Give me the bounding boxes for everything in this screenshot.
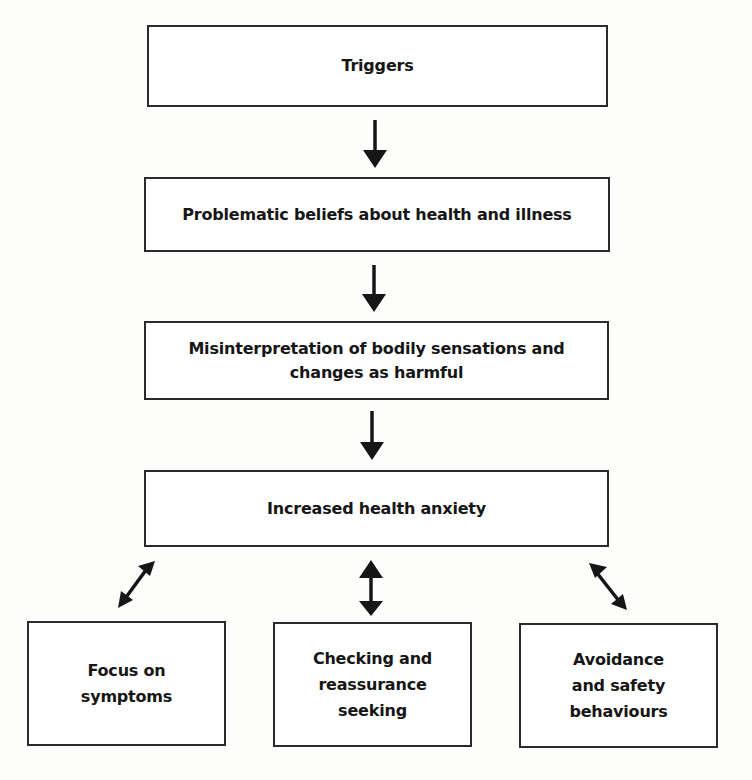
node-checking-reassurance-label: Checking and reassurance seeking: [313, 646, 432, 724]
node-avoidance-safety-label: Avoidance and safety behaviours: [569, 647, 667, 725]
node-triggers: Triggers: [147, 25, 608, 107]
node-increased-health-anxiety-label: Increased health anxiety: [267, 497, 486, 521]
node-checking-reassurance: Checking and reassurance seeking: [273, 622, 472, 747]
arrow-down-icon: [360, 411, 384, 460]
node-focus-on-symptoms: Focus on symptoms: [27, 621, 226, 746]
node-misinterpretation: Misinterpretation of bodily sensations a…: [144, 321, 609, 400]
bidirectional-arrow-icon: [359, 560, 383, 616]
arrow-down-icon: [363, 120, 387, 168]
bidirectional-arrow-icon: [118, 561, 155, 608]
bidirectional-arrow-icon: [589, 563, 627, 610]
node-problematic-beliefs-label: Problematic beliefs about health and ill…: [182, 203, 571, 227]
node-increased-health-anxiety: Increased health anxiety: [144, 470, 609, 547]
node-triggers-label: Triggers: [341, 54, 413, 78]
node-problematic-beliefs: Problematic beliefs about health and ill…: [144, 177, 610, 252]
node-avoidance-safety: Avoidance and safety behaviours: [519, 623, 718, 748]
node-focus-on-symptoms-label: Focus on symptoms: [81, 658, 172, 710]
node-misinterpretation-label: Misinterpretation of bodily sensations a…: [188, 337, 564, 385]
arrow-down-icon: [362, 265, 386, 312]
